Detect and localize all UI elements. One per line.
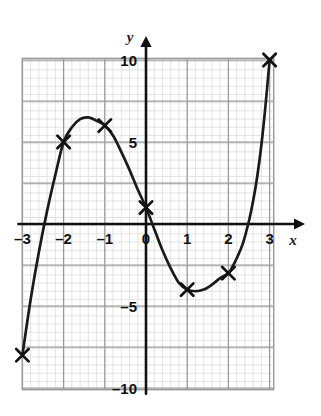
y-tick-label: –5: [120, 298, 137, 315]
x-tick-label: 1: [183, 230, 191, 247]
x-tick-label: –3: [14, 230, 31, 247]
y-tick-label: 5: [129, 134, 137, 151]
x-tick-label: 3: [265, 230, 273, 247]
x-tick-label: –2: [55, 230, 72, 247]
y-tick-label: –10: [112, 380, 137, 397]
y-axis-title: y: [125, 29, 134, 45]
x-tick-label: –1: [96, 230, 113, 247]
y-tick-label: 10: [120, 52, 137, 69]
x-axis-title: x: [288, 232, 297, 248]
x-tick-label: 0: [142, 230, 150, 247]
coordinate-plane-svg: –3–2–10123 105–5–10 x y: [0, 0, 321, 416]
graph-figure: –3–2–10123 105–5–10 x y: [0, 0, 321, 416]
x-tick-label: 2: [224, 230, 232, 247]
